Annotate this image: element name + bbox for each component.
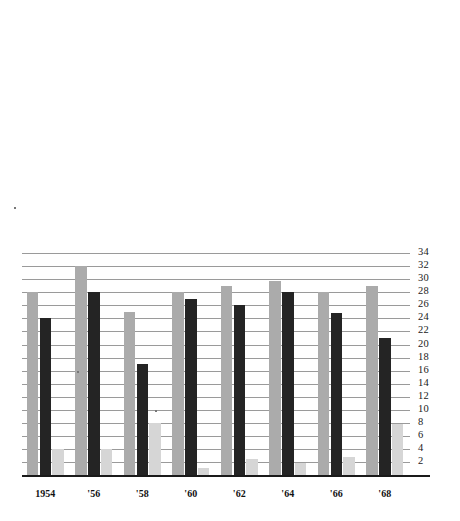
bar-62-series-1 <box>221 286 233 475</box>
bar-68-series-2 <box>379 338 391 475</box>
y-tick-label-6: 6 <box>418 430 423 441</box>
y-tick-label-30: 30 <box>418 273 429 284</box>
bar-66-series-2 <box>331 313 343 475</box>
x-tick-label-68: '68 <box>360 488 410 499</box>
y-tick-label-34: 34 <box>418 247 429 258</box>
y-tick-label-32: 32 <box>418 260 429 271</box>
bar-62-series-2 <box>234 305 246 475</box>
bars-layer <box>22 20 410 478</box>
y-tick-label-16: 16 <box>418 365 429 376</box>
scan-artifact <box>77 371 79 373</box>
bar-1954-series-3 <box>52 449 64 475</box>
y-tick-label-14: 14 <box>418 378 429 389</box>
y-tick-label-4: 4 <box>418 443 423 454</box>
x-tick-label-60: '60 <box>166 488 216 499</box>
y-tick-label-20: 20 <box>418 339 429 350</box>
bar-66-series-1 <box>318 292 330 475</box>
y-tick-label-18: 18 <box>418 352 429 363</box>
bar-60-series-2 <box>185 299 197 475</box>
bar-60-series-1 <box>172 292 184 475</box>
y-tick-label-22: 22 <box>418 325 429 336</box>
bar-58-series-3 <box>149 423 161 475</box>
y-tick-label-12: 12 <box>418 391 429 402</box>
x-tick-label-56: '56 <box>69 488 119 499</box>
y-tick-label-10: 10 <box>418 404 429 415</box>
bar-64-series-2 <box>282 292 294 475</box>
bar-64-series-1 <box>269 281 281 475</box>
bar-60-series-3 <box>198 468 210 475</box>
x-tick-label-62: '62 <box>214 488 264 499</box>
y-tick-label-24: 24 <box>418 312 429 323</box>
x-tick-label-1954: 1954 <box>20 488 70 499</box>
bar-56-series-2 <box>88 292 100 475</box>
y-tick-label-26: 26 <box>418 299 429 310</box>
scan-artifact <box>14 207 16 209</box>
bar-1954-series-2 <box>40 318 52 475</box>
bar-56-series-3 <box>101 449 113 475</box>
plot-area <box>22 20 410 478</box>
bar-58-series-2 <box>137 364 149 475</box>
x-tick-label-64: '64 <box>263 488 313 499</box>
scan-artifact <box>155 410 157 412</box>
x-tick-label-66: '66 <box>311 488 361 499</box>
bar-62-series-3 <box>246 459 258 475</box>
bar-58-series-1 <box>124 312 136 475</box>
bar-68-series-3 <box>392 424 404 475</box>
y-tick-label-28: 28 <box>418 286 429 297</box>
bar-chart: 343230282624222018161412108642 1954'56'5… <box>0 0 460 521</box>
y-tick-label-8: 8 <box>418 417 423 428</box>
bar-64-series-3 <box>295 463 307 475</box>
x-tick-label-58: '58 <box>117 488 167 499</box>
bar-66-series-3 <box>343 457 355 475</box>
bar-1954-series-1 <box>27 292 39 475</box>
y-tick-label-2: 2 <box>418 456 423 467</box>
bar-68-series-1 <box>366 286 378 475</box>
